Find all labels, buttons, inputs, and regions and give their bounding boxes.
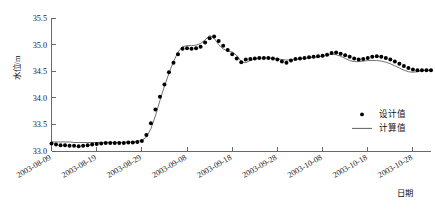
data-point — [334, 51, 338, 55]
data-point — [208, 36, 212, 40]
data-point — [316, 54, 320, 58]
data-point — [406, 66, 410, 70]
data-point — [280, 60, 284, 64]
data-point — [63, 143, 67, 147]
data-point — [95, 142, 99, 146]
x-tick-label: 2003-08-29 — [105, 153, 143, 180]
data-point — [339, 52, 343, 56]
data-point — [266, 56, 270, 60]
data-point — [239, 60, 243, 64]
data-point — [113, 141, 117, 145]
data-point — [131, 140, 135, 144]
x-tick-label: 2003-10-18 — [331, 153, 369, 180]
y-tick-label: 33.5 — [33, 120, 47, 129]
data-point — [230, 52, 234, 56]
plot-area: 33.033.534.034.535.035.5 2003-08-092003-… — [15, 14, 433, 180]
data-point — [167, 70, 171, 74]
data-point — [217, 39, 221, 43]
chart-canvas: 33.033.534.034.535.035.5 2003-08-092003-… — [0, 0, 435, 210]
data-point — [135, 140, 139, 144]
legend-dot-marker — [360, 113, 364, 117]
data-point — [393, 60, 397, 64]
data-point — [271, 56, 275, 60]
data-point — [415, 68, 419, 72]
data-point — [86, 143, 90, 147]
data-point — [176, 52, 180, 56]
data-point — [158, 95, 162, 99]
data-point — [429, 68, 433, 72]
data-point — [104, 141, 108, 145]
data-point — [122, 141, 126, 145]
data-point — [50, 142, 54, 146]
data-point — [99, 142, 103, 146]
data-point — [194, 46, 198, 50]
legend-label-design: 设计值 — [379, 108, 406, 119]
data-point — [321, 54, 325, 58]
data-point — [203, 40, 207, 44]
data-point — [275, 58, 279, 62]
data-point — [185, 46, 189, 50]
data-point — [199, 45, 203, 49]
data-point — [248, 57, 252, 61]
data-point — [384, 56, 388, 60]
data-point — [289, 59, 293, 63]
data-point — [149, 121, 153, 125]
data-point — [397, 62, 401, 66]
data-point — [108, 141, 112, 145]
data-point — [325, 53, 329, 57]
data-point — [303, 56, 307, 60]
data-point — [284, 61, 288, 65]
data-point — [54, 143, 58, 147]
y-tick-label: 35.5 — [33, 14, 47, 23]
data-point — [81, 144, 85, 148]
data-point — [221, 44, 225, 48]
data-point — [366, 56, 370, 60]
x-tick-label: 2003-08-09 — [15, 153, 53, 180]
x-tick-label: 2003-09-28 — [241, 153, 279, 180]
data-point — [379, 55, 383, 59]
data-point — [424, 68, 428, 72]
x-tick-label: 2003-09-08 — [150, 153, 188, 180]
data-point — [171, 61, 175, 65]
data-point — [330, 51, 334, 55]
data-point — [420, 68, 424, 72]
data-point — [262, 56, 266, 60]
data-point — [388, 58, 392, 62]
y-tick-label: 35.0 — [33, 41, 47, 50]
data-point — [357, 58, 361, 62]
x-tick-label: 2003-10-28 — [376, 153, 414, 180]
data-point — [402, 64, 406, 68]
data-point — [244, 58, 248, 62]
data-point — [298, 56, 302, 60]
data-point — [190, 47, 194, 51]
data-point — [77, 144, 81, 148]
data-point — [144, 133, 148, 137]
data-point — [257, 56, 261, 60]
chart-legend: 设计值 计算值 — [352, 108, 406, 133]
x-axis-ticks: 2003-08-092003-08-192003-08-292003-09-08… — [15, 147, 414, 180]
data-point — [312, 55, 316, 59]
data-point — [90, 143, 94, 147]
x-tick-label: 2003-08-19 — [60, 153, 98, 180]
design-value-points — [50, 35, 434, 149]
x-tick-label: 2003-09-18 — [196, 153, 234, 180]
data-point — [59, 143, 63, 147]
data-point — [126, 140, 130, 144]
data-point — [140, 139, 144, 143]
y-tick-label: 34.0 — [33, 94, 47, 103]
data-point — [212, 35, 216, 39]
data-point — [348, 55, 352, 59]
legend-label-calculated: 计算值 — [379, 122, 406, 133]
data-point — [343, 53, 347, 57]
data-point — [153, 108, 157, 112]
y-axis-title: 水位/m — [12, 55, 22, 80]
y-axis-ticks: 33.033.534.034.535.035.5 — [33, 14, 56, 156]
data-point — [352, 56, 356, 60]
data-point — [162, 83, 166, 87]
data-point — [307, 55, 311, 59]
data-point — [117, 141, 121, 145]
data-point — [253, 56, 257, 60]
x-tick-label: 2003-10-08 — [286, 153, 324, 180]
data-point — [72, 144, 76, 148]
data-point — [226, 48, 230, 52]
